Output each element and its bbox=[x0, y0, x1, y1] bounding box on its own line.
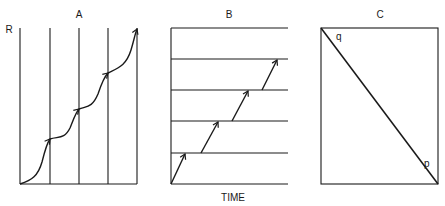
label-p: p bbox=[424, 158, 430, 169]
panel-a: A R bbox=[5, 9, 137, 184]
panel-b: B TIME bbox=[171, 9, 288, 203]
diagram-canvas: A R B TIME bbox=[0, 0, 445, 206]
label-q: q bbox=[336, 31, 342, 42]
panel-c-title: C bbox=[376, 9, 383, 20]
panel-b-arrows bbox=[171, 60, 277, 184]
panel-c-diagonal bbox=[321, 28, 438, 184]
x-axis-label-time: TIME bbox=[221, 192, 245, 203]
y-axis-label-r: R bbox=[5, 24, 12, 35]
panel-a-title: A bbox=[76, 9, 83, 20]
panel-c: C q p bbox=[321, 9, 438, 184]
panel-b-title: B bbox=[226, 9, 233, 20]
